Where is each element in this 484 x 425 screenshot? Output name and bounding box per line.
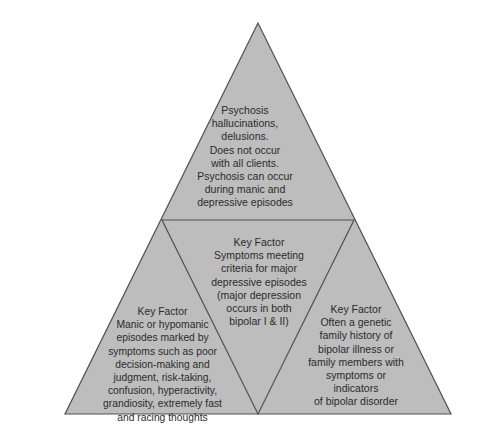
- right-section-genetic-text: Key Factor Often a genetic family histor…: [302, 303, 410, 409]
- top-section-psychosis-text: Psychosis hallucinations, delusions. Doe…: [175, 104, 315, 210]
- left-section-manic-text: Key Factor Manic or hypomanic episodes m…: [100, 305, 225, 424]
- pyramid-diagram: [0, 0, 484, 425]
